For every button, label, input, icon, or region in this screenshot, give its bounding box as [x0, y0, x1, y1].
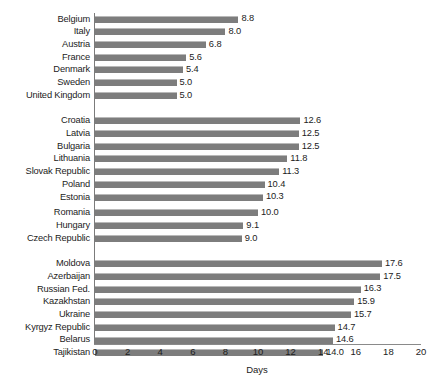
- bar-value-label: 9.0: [245, 232, 258, 245]
- bar-row: Azerbaijan17.5: [0, 270, 446, 283]
- bar-chart: Belgium8.8Italy8.0Austria6.8France5.6Den…: [0, 0, 446, 389]
- bar-value-label: 10.4: [268, 178, 286, 191]
- bar-track: [95, 130, 299, 137]
- bar: [95, 337, 333, 344]
- bar-row: Romania10.0: [0, 207, 446, 220]
- bar: [95, 130, 299, 137]
- bar: [95, 66, 183, 73]
- bar-row: Ukraine15.7: [0, 308, 446, 321]
- bar-value-label: 15.9: [357, 295, 375, 308]
- bar-track: [95, 28, 225, 35]
- bar-track: [95, 168, 279, 175]
- bar-category-label: Denmark: [0, 63, 90, 76]
- bar-track: [95, 298, 354, 305]
- bar: [95, 222, 243, 229]
- bar-value-label: 5.4: [186, 63, 199, 76]
- bar-category-label: Lithuania: [0, 152, 90, 165]
- bar-value-label: 6.8: [209, 38, 222, 51]
- bar-row: Denmark5.4: [0, 64, 446, 77]
- bar-value-label: 5.0: [180, 76, 193, 89]
- bar-track: [95, 311, 351, 318]
- bar: [95, 143, 299, 150]
- bar-value-label: 15.7: [354, 308, 372, 321]
- bar: [95, 92, 177, 99]
- bar-category-label: Belgium: [0, 13, 90, 26]
- bar: [95, 168, 279, 175]
- bar-category-label: Poland: [0, 178, 90, 191]
- bar-category-label: Czech Republic: [0, 232, 90, 245]
- bar-track: [95, 324, 335, 331]
- bar: [95, 298, 354, 305]
- bar-category-label: Russian Fed.: [0, 283, 90, 296]
- bar-row: Croatia12.6: [0, 115, 446, 128]
- bar-category-label: Hungary: [0, 219, 90, 232]
- bar-row: Bulgaria12.5: [0, 140, 446, 153]
- plot-area: Belgium8.8Italy8.0Austria6.8France5.6Den…: [0, 0, 446, 389]
- bar-track: [95, 286, 361, 293]
- bar-value-label: 12.6: [303, 114, 321, 127]
- bar-value-label: 8.0: [228, 25, 241, 38]
- bar-row: Czech Republic9.0: [0, 232, 446, 245]
- bar-row: Sweden5.0: [0, 77, 446, 90]
- bar-track: [95, 66, 183, 73]
- bar-category-label: Slovak Republic: [0, 165, 90, 178]
- bar-track: [95, 54, 186, 61]
- bar-value-label: 14.7: [338, 321, 356, 334]
- bar-track: [95, 194, 263, 201]
- bar-category-label: Croatia: [0, 114, 90, 127]
- bar-row: Latvia12.5: [0, 127, 446, 140]
- bar-value-label: 11.8: [290, 152, 307, 165]
- y-axis-line: [94, 13, 95, 344]
- bar-category-label: Estonia: [0, 191, 90, 204]
- x-axis-tick-label: 20: [401, 345, 441, 359]
- bar-category-label: France: [0, 51, 90, 64]
- bar: [95, 273, 380, 280]
- x-axis-ticks: 02468101214161820: [0, 345, 446, 361]
- bar-value-label: 8.8: [241, 12, 254, 25]
- bar-category-label: Bulgaria: [0, 140, 90, 153]
- bar-track: [95, 273, 380, 280]
- bar: [95, 311, 351, 318]
- bar-track: [95, 222, 243, 229]
- bar-row: Hungary9.1: [0, 219, 446, 232]
- bar-category-label: United Kingdom: [0, 89, 90, 102]
- bar-category-label: Kazakhstan: [0, 295, 90, 308]
- bar: [95, 155, 287, 162]
- bar-row: Lithuania11.8: [0, 153, 446, 166]
- bar-track: [95, 41, 206, 48]
- bar: [95, 209, 258, 216]
- bar-category-label: Sweden: [0, 76, 90, 89]
- bar-row: France5.6: [0, 51, 446, 64]
- bar: [95, 194, 263, 201]
- bar-track: [95, 235, 242, 242]
- bar-value-label: 5.0: [180, 89, 193, 102]
- bar-category-label: Latvia: [0, 127, 90, 140]
- bar-row: Italy8.0: [0, 26, 446, 39]
- bar-category-label: Moldova: [0, 257, 90, 270]
- bar: [95, 54, 186, 61]
- bar-track: [95, 337, 333, 344]
- x-axis-title-label: Days: [246, 364, 268, 375]
- bar-rows: Belgium8.8Italy8.0Austria6.8France5.6Den…: [0, 13, 446, 359]
- bar-value-label: 17.6: [385, 257, 403, 270]
- bar-value-label: 17.5: [383, 270, 401, 283]
- bar-row: Poland10.4: [0, 178, 446, 191]
- bar-value-label: 9.1: [246, 219, 259, 232]
- bar-category-label: Romania: [0, 206, 90, 219]
- bar-value-label: 12.5: [302, 127, 320, 140]
- bar-row: Kyrgyz Republic14.7: [0, 321, 446, 334]
- bar: [95, 16, 238, 23]
- bar-track: [95, 92, 177, 99]
- bar-category-label: Austria: [0, 38, 90, 51]
- bar-row: Moldova17.6: [0, 258, 446, 271]
- x-axis-title: Days: [0, 364, 446, 375]
- bar-value-label: 11.3: [282, 165, 299, 178]
- bar-value-label: 16.3: [364, 282, 382, 295]
- bar-category-label: Ukraine: [0, 308, 90, 321]
- bar: [95, 181, 265, 188]
- bar: [95, 324, 335, 331]
- bar-category-label: Kyrgyz Republic: [0, 321, 90, 334]
- bar-track: [95, 79, 177, 86]
- bar: [95, 117, 300, 124]
- bar: [95, 286, 361, 293]
